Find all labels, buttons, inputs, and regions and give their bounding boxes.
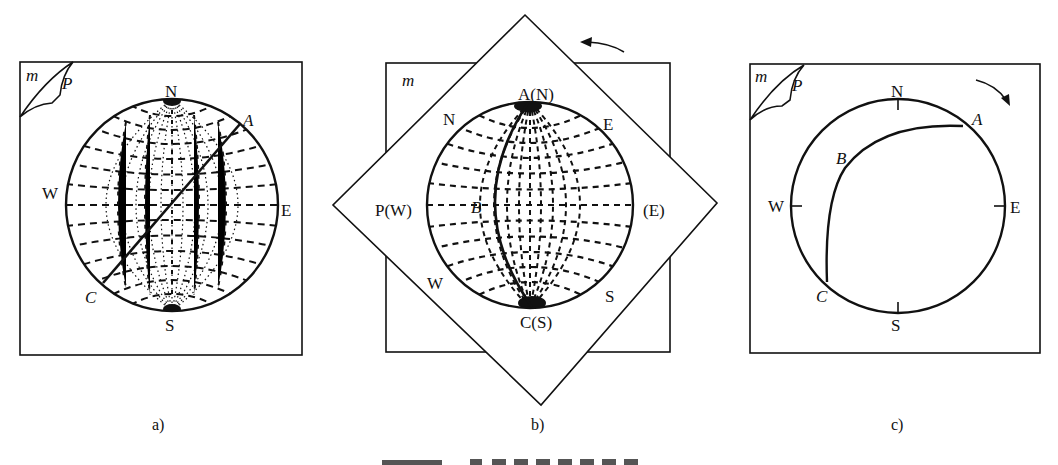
compass-s: S	[165, 316, 174, 335]
sublabel-a: a)	[152, 416, 164, 434]
point-p-w: P(W)	[375, 201, 412, 220]
sublabel-c: c)	[891, 416, 903, 434]
compass-e: E	[281, 201, 291, 220]
compass-s: S	[891, 316, 900, 335]
point-c: C	[85, 288, 97, 307]
point-a-n: A(N)	[518, 85, 554, 104]
label-m: m	[755, 67, 767, 86]
label-p: P	[791, 76, 802, 95]
primitive-circle	[791, 99, 1005, 313]
label-p: P	[61, 74, 72, 93]
compass-e: E	[1010, 198, 1020, 217]
tracing-paper-frame	[750, 64, 1040, 353]
label-m: m	[402, 71, 414, 90]
compass-w: W	[42, 184, 59, 203]
panel-a: m P	[20, 62, 302, 434]
compass-n: N	[165, 82, 177, 101]
panel-c: m P N S W E A B C c)	[750, 64, 1040, 434]
compass-w: W	[768, 197, 785, 216]
great-circle-abc	[827, 126, 963, 282]
figure-caption-truncated	[382, 459, 638, 465]
compass-s: S	[605, 287, 614, 306]
sublabel-b: b)	[531, 416, 544, 434]
label-m: m	[26, 66, 38, 85]
compass-w: W	[427, 274, 444, 293]
point-c-s: C(S)	[520, 313, 552, 332]
compass-e: E	[603, 115, 613, 134]
rotate-cw-arrow-icon	[976, 80, 1006, 100]
point-e-paren: (E)	[643, 201, 665, 220]
point-a: A	[971, 110, 983, 129]
point-a: A	[242, 111, 254, 130]
compass-n: N	[891, 82, 903, 101]
rotate-ccw-arrow-icon	[587, 42, 624, 52]
point-b: B	[471, 198, 482, 217]
stereonet-figure: m P	[0, 0, 1058, 465]
compass-n: N	[443, 110, 455, 129]
point-b: B	[836, 149, 847, 168]
panel-b: m A(N) C(S)	[333, 15, 717, 434]
arrowhead-icon	[580, 37, 592, 47]
point-c: C	[816, 287, 828, 306]
